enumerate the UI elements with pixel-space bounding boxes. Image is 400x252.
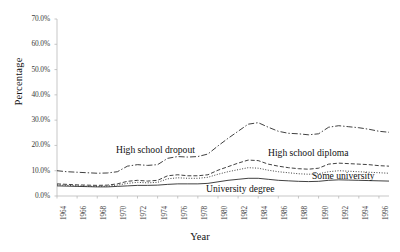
plot-area: [0, 0, 400, 252]
series-label: University degree: [206, 183, 274, 194]
series-label: High school diploma: [268, 147, 348, 158]
chart-figure: Percentage Year 0.0%10.0%20.0%30.0%40.0%…: [0, 0, 400, 252]
series-label: High school dropout: [116, 144, 195, 155]
series-label: Some university: [312, 170, 375, 181]
